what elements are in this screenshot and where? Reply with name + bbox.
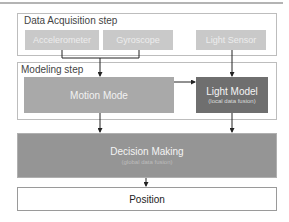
connector-arrows bbox=[0, 0, 289, 222]
